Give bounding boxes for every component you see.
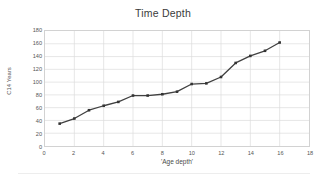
- x-tick-label: 18: [300, 150, 320, 156]
- y-tick-label: 80: [20, 92, 42, 98]
- x-tick-label: 6: [123, 150, 143, 156]
- x-tick-label: 4: [93, 150, 113, 156]
- y-tick-label: 20: [20, 131, 42, 137]
- x-tick-label: 8: [152, 150, 172, 156]
- y-tick-label: 140: [20, 53, 42, 59]
- x-tick-label: 10: [182, 150, 202, 156]
- data-series-line: [45, 31, 309, 146]
- x-tick-label: 14: [241, 150, 261, 156]
- chart-figure: Time Depth C14 Years 0204060801001201401…: [0, 0, 326, 180]
- chart-title: Time Depth: [0, 7, 326, 19]
- y-tick-label: 120: [20, 66, 42, 72]
- x-tick-label: 12: [211, 150, 231, 156]
- y-axis-tick-labels: 020406080100120140160180: [18, 30, 42, 147]
- y-tick-label: 40: [20, 118, 42, 124]
- y-axis-title: C14 Years: [6, 59, 12, 103]
- y-tick-label: 180: [20, 27, 42, 33]
- x-tick-label: 0: [34, 150, 54, 156]
- scan-artifact-line: [18, 173, 310, 174]
- x-axis-title: 'Age depth': [44, 158, 310, 165]
- plot-area: [44, 30, 310, 147]
- y-tick-label: 160: [20, 40, 42, 46]
- y-tick-label: 60: [20, 105, 42, 111]
- x-tick-label: 16: [270, 150, 290, 156]
- x-tick-label: 2: [64, 150, 84, 156]
- y-tick-label: 100: [20, 79, 42, 85]
